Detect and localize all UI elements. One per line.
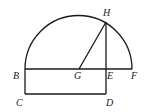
label-d: D bbox=[105, 97, 114, 108]
label-h: H bbox=[102, 7, 111, 18]
label-f: F bbox=[130, 70, 138, 81]
label-e: E bbox=[106, 70, 113, 81]
geometry-diagram: B G E F H C D bbox=[0, 0, 145, 112]
label-b: B bbox=[13, 70, 19, 81]
label-g: G bbox=[74, 70, 81, 81]
segment-gh bbox=[79, 22, 106, 69]
semicircle-arc bbox=[25, 15, 132, 69]
label-c: C bbox=[16, 97, 23, 108]
